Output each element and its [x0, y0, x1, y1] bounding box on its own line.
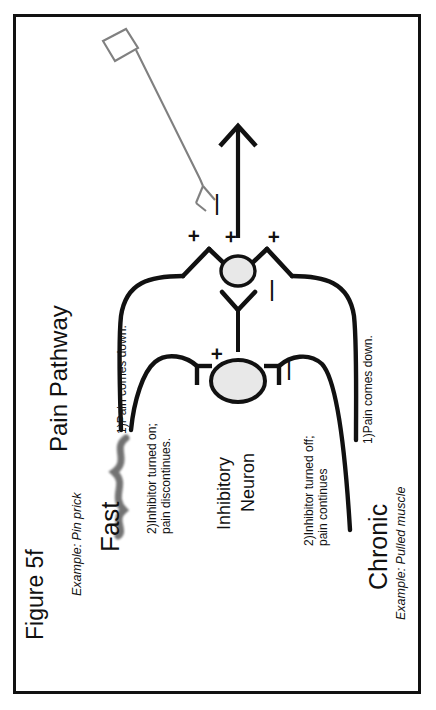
synapse-plus-center: +: [219, 231, 243, 243]
synapse-arm-upper-right: [247, 249, 267, 268]
chronic-example: Example: Pulled muscle: [394, 487, 408, 620]
synapse-arm-left-out: [183, 249, 209, 276]
chronic-step-2-line-1: 2)Inhibitor turned off;: [303, 435, 317, 546]
figure-label: Figure 5f: [22, 549, 48, 640]
arrow-head: [220, 126, 256, 146]
inhibitory-neuron-body: [211, 360, 265, 402]
inhibitory-neuron-label-line-2: Neuron: [238, 453, 259, 512]
diagram-stage: Figure 5f Pain Pathway Example: Pin pric…: [0, 0, 436, 710]
fast-step-1: 1)Pain comes down.: [116, 325, 130, 434]
synapse-v-right: [238, 292, 255, 310]
chronic-heading: Chronic: [364, 504, 393, 590]
chronic-step-2-line-2: pain continues: [317, 469, 331, 546]
inhibitory-neuron-terminals: [197, 366, 279, 385]
gray-fork-left: [196, 186, 203, 203]
synapse-arm-upper-left: [209, 249, 229, 268]
ascending-arrow-icon: [220, 126, 256, 238]
synapse-plus-left: +: [182, 230, 206, 242]
fast-step-2-line-1: 2)Inhibitor turned on;: [146, 423, 160, 534]
fast-heading: Fast: [96, 501, 126, 552]
page-title: Pain Pathway: [45, 305, 72, 452]
inhibitory-neuron-label-line-1: Inhibitory: [214, 457, 235, 530]
fast-example: Example: Pin prick: [70, 492, 84, 596]
gray-stem-line: [136, 50, 203, 186]
chronic-step-1: 1)Pain comes down.: [362, 335, 376, 444]
descending-inhibitor-minus-sign: —: [203, 194, 227, 215]
fast-inner-fiber: [131, 356, 197, 430]
inhibitory-neuron-plus-sign: +: [205, 348, 229, 360]
synapse-node: [221, 256, 255, 286]
figure-page: Figure 5f Pain Pathway Example: Pin pric…: [0, 0, 436, 710]
inhibitory-neuron-minus-sign: —: [275, 359, 299, 380]
descending-inhibitor-path: [103, 29, 215, 211]
synapse-minus-sign: —: [258, 280, 282, 301]
synapse-v-left: [222, 292, 238, 310]
fast-step-2-line-2: pain discontinues.: [160, 438, 174, 534]
synapse-plus-right: +: [262, 231, 286, 243]
gray-square-icon: [103, 29, 138, 61]
synapse-arm-right-out: [267, 249, 292, 276]
chronic-outer-fiber: [292, 276, 356, 440]
